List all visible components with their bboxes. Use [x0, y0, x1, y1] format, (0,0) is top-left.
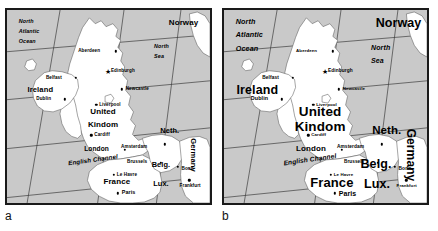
city-marker-paris: [117, 192, 119, 194]
city-marker-paris: [334, 192, 336, 194]
ocean-label-north-atlantic-ocean: Atlantic: [236, 32, 263, 39]
country-label-belgium: Belg.: [360, 158, 391, 171]
city-label-le-havre: Le Havre: [117, 172, 137, 177]
city-label-edinburgh: Edinburgh: [328, 68, 353, 73]
city-label-amsterdam: Amsterdam: [121, 145, 147, 150]
city-label-london: London: [84, 146, 109, 153]
city-label-paris: Paris: [339, 190, 357, 197]
city-label-brussels: Brussels: [344, 160, 364, 165]
city-marker-newcastle: [338, 88, 340, 90]
city-label-frankfurt: Frankfurt: [397, 184, 417, 188]
country-label-luxembourg: Lux.: [153, 181, 169, 188]
city-label-liverpool: Liverpool: [316, 103, 337, 107]
map-panel-b: NorthAtlanticOceanNorthSeaIrelandUnitedK…: [222, 8, 429, 205]
city-label-belfast: Belfast: [46, 75, 62, 80]
country-label-ireland: Ireland: [28, 87, 54, 95]
country-label-norway: Norway: [169, 19, 199, 27]
city-label-aberdeen: Aberdeen: [78, 49, 100, 54]
city-label-belfast: Belfast: [262, 75, 279, 80]
city-marker-cardiff: [307, 134, 309, 136]
ocean-label-north-sea: Sea: [154, 55, 164, 60]
country-label-netherlands: Neth.: [372, 126, 401, 138]
city-label-edinburgh: Edinburgh: [111, 68, 135, 73]
country-label-netherlands: Neth.: [160, 128, 179, 135]
city-marker-liverpool: [95, 104, 97, 106]
sea-label-english-channel: English Channel: [284, 153, 338, 167]
country-label-france: France: [103, 178, 130, 186]
city-label-bonn: Bonn: [182, 166, 194, 171]
city-label-dublin: Dublin: [251, 96, 268, 101]
ocean-label-north-atlantic-ocean: North: [236, 18, 256, 25]
city-label-frankfurt: Frankfurt: [180, 184, 201, 189]
city-marker-bonn: [393, 166, 395, 168]
map-frame-b: NorthAtlanticOceanNorthSeaIrelandUnitedK…: [222, 8, 429, 205]
city-label-liverpool: Liverpool: [99, 103, 121, 108]
ocean-label-north-sea: Sea: [371, 57, 384, 64]
city-label-bonn: Bonn: [399, 166, 412, 171]
city-label-aberdeen: Aberdeen: [296, 49, 317, 53]
ocean-label-north-sea: North: [371, 44, 390, 51]
city-marker-amsterdam: [164, 143, 166, 145]
city-label-dublin: Dublin: [36, 97, 51, 102]
map-labels-a: NorthAtlanticOceanNorthSeaIrelandUnitedK…: [7, 10, 210, 203]
city-marker-newcastle: [121, 88, 123, 90]
ocean-label-north-atlantic-ocean: Ocean: [236, 45, 258, 52]
country-label-france: France: [310, 176, 353, 189]
city-label-newcastle: Newcastle: [343, 87, 365, 91]
city-marker-aberdeen: [115, 50, 117, 52]
city-marker-belfast: [74, 76, 76, 78]
city-marker-amsterdam: [381, 143, 383, 145]
sea-label-english-channel: English Channel: [68, 153, 118, 166]
ocean-label-north-atlantic-ocean: Ocean: [19, 39, 36, 44]
city-label-paris: Paris: [122, 190, 136, 195]
city-marker-frankfurt: [188, 179, 190, 181]
city-label-cardiff: Cardiff: [94, 133, 110, 138]
country-label-united-kingdom: United: [90, 108, 116, 116]
city-marker-le-havre: [113, 173, 115, 175]
ocean-label-north-sea: North: [154, 45, 169, 50]
country-label-germany: Germany: [405, 129, 417, 182]
city-marker-dublin: [281, 98, 283, 100]
city-marker-bonn: [176, 166, 178, 168]
city-label-newcastle: Newcastle: [126, 87, 149, 92]
figure-map-label-comparison: NorthAtlanticOceanNorthSeaIrelandUnitedK…: [0, 0, 438, 231]
city-label-amsterdam: Amsterdam: [337, 145, 364, 150]
map-labels-b: NorthAtlanticOceanNorthSeaIrelandUnitedK…: [224, 10, 427, 203]
ocean-label-north-atlantic-ocean: North: [19, 19, 34, 24]
city-label-brussels: Brussels: [127, 160, 147, 165]
country-label-luxembourg: Lux.: [364, 178, 390, 191]
city-marker-dublin: [64, 98, 66, 100]
city-label-london: London: [296, 145, 326, 153]
city-marker-aberdeen: [332, 50, 334, 52]
city-label-cardiff: Cardiff: [311, 133, 326, 137]
city-marker-cardiff: [90, 134, 92, 136]
map-frame-a: NorthAtlanticOceanNorthSeaIrelandUnitedK…: [5, 8, 212, 205]
panel-caption-a: a: [5, 209, 12, 223]
city-label-le-havre: Le Havre: [334, 172, 353, 176]
city-marker-belfast: [291, 76, 293, 78]
map-panel-a: NorthAtlanticOceanNorthSeaIrelandUnitedK…: [5, 8, 212, 205]
country-label-united-kingdom-2: Kindom: [88, 121, 118, 129]
country-label-norway: Norway: [376, 16, 422, 29]
ocean-label-north-atlantic-ocean: Atlantic: [19, 29, 40, 34]
panel-caption-b: b: [222, 209, 229, 223]
